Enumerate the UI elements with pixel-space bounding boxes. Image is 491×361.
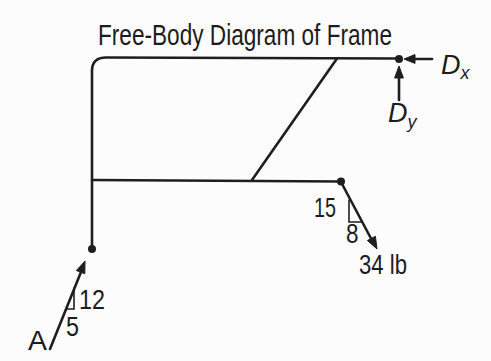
free-body-diagram-figure: Free-Body Diagram of Frame Dx Dy 15 8 34… [0,0,491,361]
reaction-a-arrowhead [76,261,85,274]
applied-force-arrowhead [367,236,377,249]
dx-arrowhead [404,55,415,64]
dx-symbol: D [441,50,461,80]
dy-force-arrow [395,66,404,100]
pin-d-top-right [395,55,403,63]
dy-arrowhead [395,66,404,78]
lower-horizontal-member [92,180,341,182]
slope-rise-15-label: 15 [314,193,336,223]
dy-symbol: D [388,98,408,128]
slope-run-5-label: 5 [66,312,79,342]
diagonal-member [252,59,337,181]
dy-subscript: y [406,112,418,132]
slope-rise-12-label: 12 [79,285,105,315]
slope-run-8-label: 8 [346,219,359,249]
dy-label: Dy [388,98,418,132]
free-body-diagram-canvas: Free-Body Diagram of Frame Dx Dy 15 8 34… [0,0,491,361]
dx-label: Dx [441,50,471,83]
force-magnitude-label: 34 lb [359,250,407,280]
dx-force-arrow [404,55,432,64]
pin-bottom-left [88,245,96,253]
diagram-title: Free-Body Diagram of Frame [98,19,392,51]
dx-subscript: x [460,63,471,83]
point-a-label: A [28,326,47,356]
